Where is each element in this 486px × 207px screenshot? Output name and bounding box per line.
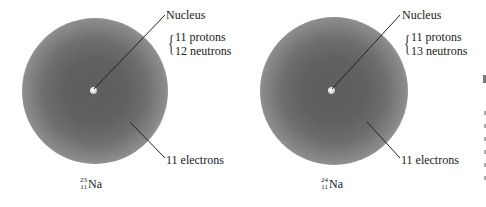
nucleus-label: Nucleus [166,8,205,22]
nucleus-composition: { 11 protons 13 neutrons [404,30,467,58]
element-symbol: Na [88,177,102,191]
electrons-label: 11 electrons [166,153,224,167]
atomic-number: 11 [321,183,328,191]
nucleus-label: Nucleus [402,8,441,22]
atomic-number: 11 [80,183,87,191]
electrons-label: 11 electrons [401,153,459,167]
protons-count: 11 protons [175,30,231,44]
neutrons-count: 13 neutrons [411,44,467,58]
brace-icon: { [404,30,410,56]
neutrons-count: 12 neutrons [175,44,231,58]
element-symbol: Na [329,177,343,191]
protons-count: 11 protons [411,30,467,44]
brace-icon: { [168,30,174,56]
atom-panel-na23: Nucleus { 11 protons 12 neutrons 11 elec… [0,0,243,207]
isotope-symbol: 2411Na [321,176,343,192]
atom-panel-na24: Nucleus { 11 protons 13 neutrons 11 elec… [240,0,483,207]
nucleus-composition: { 11 protons 12 neutrons [168,30,231,58]
isotope-symbol: 2311Na [80,176,102,192]
